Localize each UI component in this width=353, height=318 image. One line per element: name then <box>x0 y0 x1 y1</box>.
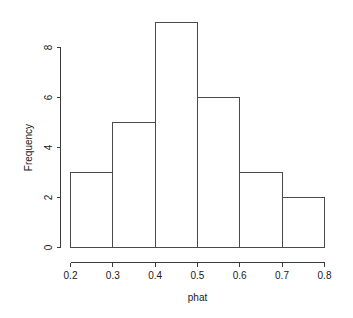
x-tick-label-0.8: 0.8 <box>318 270 332 281</box>
x-axis-title: phat <box>188 292 208 303</box>
x-tick-label-0.7: 0.7 <box>275 270 289 281</box>
histogram-plot: 0 2 4 6 8 Frequency 0.2 0.3 0.4 0.5 0.6 … <box>0 0 353 318</box>
y-tick-label-4: 4 <box>43 144 54 150</box>
y-tick-label-8: 8 <box>43 44 54 50</box>
bar-bin-2 <box>113 123 155 248</box>
bar-bin-6 <box>282 198 324 248</box>
bar-bin-5 <box>240 173 282 248</box>
x-tick-label-0.5: 0.5 <box>190 270 204 281</box>
x-tick-label-0.4: 0.4 <box>148 270 162 281</box>
x-tick-label-0.3: 0.3 <box>106 270 120 281</box>
y-tick-label-6: 6 <box>43 94 54 100</box>
x-tick-label-0.2: 0.2 <box>64 270 78 281</box>
y-axis-title: Frequency <box>23 124 34 171</box>
y-tick-label-0: 0 <box>43 244 54 250</box>
bar-bin-4 <box>198 98 240 248</box>
bar-bin-1 <box>71 173 113 248</box>
x-tick-label-0.6: 0.6 <box>233 270 247 281</box>
bar-bin-3 <box>155 23 197 248</box>
y-tick-label-2: 2 <box>43 194 54 200</box>
